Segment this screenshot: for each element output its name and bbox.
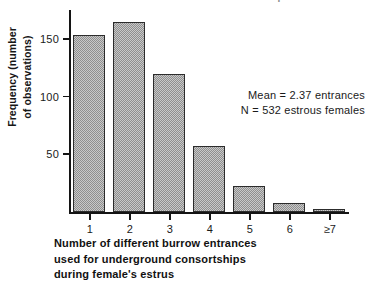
caption-line-2: used for underground consortships	[54, 252, 366, 268]
y-axis-title: Frequency (number of observations)	[5, 0, 39, 162]
bar	[153, 74, 185, 212]
y-axis-tick-label: 100	[40, 91, 59, 103]
bar	[73, 35, 105, 212]
sample-size-annotation: N = 532 estrous females	[241, 103, 365, 118]
mean-annotation: Mean = 2.37 entrances	[241, 88, 365, 103]
x-axis-tick-label: 6	[287, 223, 293, 235]
y-axis-tick: 50	[63, 153, 69, 155]
x-axis-tick-label: 1	[87, 223, 93, 235]
caption-line-3: during female's estrus	[54, 267, 366, 283]
histogram-figure: burrow entrances used for consortships F…	[0, 0, 373, 285]
x-axis-tick: 5	[249, 214, 251, 220]
x-axis-tick: 1	[89, 214, 91, 220]
x-axis-tick-label: 5	[247, 223, 253, 235]
y-axis-tick: 150	[63, 38, 69, 40]
clipped-chart-title: burrow entrances used for consortships	[0, 0, 373, 3]
bar	[233, 186, 265, 212]
x-axis-tick: 2	[129, 214, 131, 220]
x-axis-tick-label: 4	[207, 223, 213, 235]
x-axis-tick-label: 3	[167, 223, 173, 235]
caption-line-1: Number of different burrow entrances	[54, 236, 366, 252]
y-axis-title-line-1: Frequency (number	[5, 0, 20, 162]
bar	[313, 209, 345, 212]
x-axis-tick: ≥7	[329, 214, 331, 220]
bar	[273, 203, 305, 212]
x-axis-tick-label: ≥7	[324, 223, 336, 235]
x-axis-tick-label: 2	[127, 223, 133, 235]
y-axis-tick-label: 150	[40, 33, 59, 45]
statistics-annotation: Mean = 2.37 entrances N = 532 estrous fe…	[241, 88, 365, 118]
y-axis-line	[69, 10, 71, 214]
bar	[113, 22, 145, 213]
y-axis-tick: 100	[63, 96, 69, 98]
x-axis-tick: 3	[169, 214, 171, 220]
x-axis-tick: 6	[289, 214, 291, 220]
x-axis-caption: Number of different burrow entrances use…	[54, 236, 366, 283]
x-axis-tick: 4	[209, 214, 211, 220]
y-axis-tick-label: 50	[46, 148, 59, 160]
bar	[193, 146, 225, 213]
y-axis-title-line-2: of observations)	[20, 0, 35, 162]
